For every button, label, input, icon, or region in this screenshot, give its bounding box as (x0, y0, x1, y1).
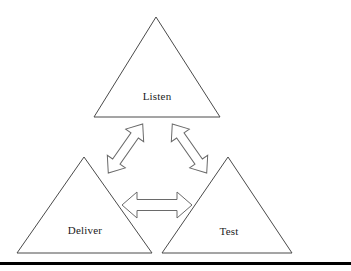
arrow-listen-test (163, 118, 215, 180)
node-label-listen: Listen (143, 90, 172, 102)
diagram-canvas: Listen Deliver Test (0, 0, 351, 271)
bottom-horizontal-rule (0, 262, 351, 265)
diagram-svg (0, 0, 351, 271)
triangle-listen (94, 17, 220, 117)
arrow-deliver-test (122, 192, 192, 218)
node-label-test: Test (220, 225, 239, 237)
node-label-deliver: Deliver (68, 224, 102, 236)
arrow-listen-deliver (99, 118, 151, 180)
